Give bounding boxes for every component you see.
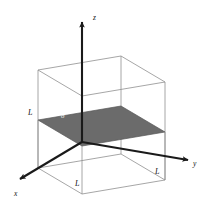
cube-top-face [38,56,165,96]
length-label-right: L [155,168,159,176]
y-axis-line [82,142,188,160]
cube-bottom-face [38,154,165,194]
coordinate-axes [20,22,188,179]
x-axis-line [20,142,82,179]
length-label-front: L [75,180,79,188]
cube-diagram-svg [0,0,209,207]
plane-sigma-label: σ [61,113,64,120]
y-axis-label: y [193,160,196,168]
x-axis-label: x [14,190,17,198]
cross-section-plane [38,106,165,146]
figure-canvas: z y x L L L σ [0,0,209,207]
z-axis-label: z [93,14,96,22]
length-label-left: L [28,109,32,117]
